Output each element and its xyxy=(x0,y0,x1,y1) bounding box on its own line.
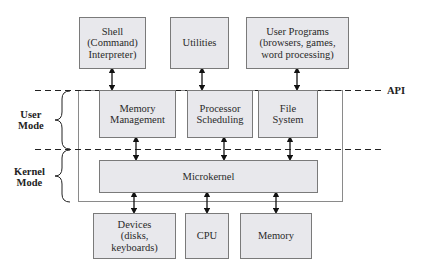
shell-box: Shell (Command) Interpreter) xyxy=(79,17,146,69)
utilities-box: Utilities xyxy=(170,17,229,69)
microkernel-box: Microkernel xyxy=(99,160,318,193)
devices-label: Devices (disks, keyboards) xyxy=(111,219,158,254)
memory-management-label: Memory Management xyxy=(110,103,165,126)
utilities-label: Utilities xyxy=(183,37,217,49)
user-mode-label: User Mode xyxy=(18,109,44,131)
user-mode-brace-icon xyxy=(55,91,70,149)
user-programs-box: User Programs (browsers, games, word pro… xyxy=(246,17,349,69)
processor-scheduling-label: Processor Scheduling xyxy=(196,103,243,126)
devices-box: Devices (disks, keyboards) xyxy=(93,213,176,259)
user-programs-label: User Programs (browsers, games, word pro… xyxy=(259,26,335,61)
processor-scheduling-box: Processor Scheduling xyxy=(187,90,253,138)
cpu-label: CPU xyxy=(197,230,217,242)
file-system-label: File System xyxy=(273,103,304,126)
memory-management-box: Memory Management xyxy=(99,90,176,138)
memory-label: Memory xyxy=(258,230,294,242)
cpu-box: CPU xyxy=(185,213,229,259)
shell-label: Shell (Command) Interpreter) xyxy=(87,26,138,61)
memory-box: Memory xyxy=(240,213,312,259)
microkernel-label: Microkernel xyxy=(183,171,235,183)
kernel-mode-brace-icon xyxy=(55,150,70,202)
kernel-mode-label: Kernel Mode xyxy=(14,166,45,188)
api-label: API xyxy=(387,85,405,96)
file-system-box: File System xyxy=(258,90,318,138)
